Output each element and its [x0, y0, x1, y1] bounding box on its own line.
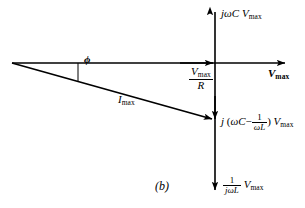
label-sub: max: [275, 72, 289, 81]
figure-caption: (b): [155, 180, 169, 192]
total-current-phasor: [12, 63, 212, 119]
label-v: V: [242, 7, 249, 19]
label-close-paren: ): [267, 115, 271, 127]
label-omega-c: ωC: [224, 7, 239, 19]
label-sub: max: [250, 183, 263, 192]
label-phase-angle: ϕ: [84, 54, 90, 65]
label-sub: max: [280, 120, 293, 129]
label-resistive-current: Vmax R: [189, 66, 213, 91]
fraction-one-over-omega-l: 1ωL: [252, 113, 267, 133]
fraction-denominator: R: [189, 80, 213, 92]
fraction-vmax-over-r: Vmax R: [189, 66, 213, 91]
label-sub: max: [249, 12, 262, 21]
fraction-denominator: jωL: [223, 186, 241, 195]
label-net-reactive-current: j (ωC−1ωL) Vmax: [221, 113, 294, 133]
fraction-numerator: Vmax: [189, 66, 213, 80]
label-capacitive-current: jωC Vmax: [221, 8, 262, 20]
label-inductive-current: 1 jωL Vmax: [223, 176, 264, 196]
phasor-diagram-figure: jωC Vmax Vmax Vmax R j (ωC−1ωL) Vmax 1 j…: [0, 0, 305, 208]
label-j: j: [221, 115, 224, 127]
label-omega-c: ωC: [230, 115, 245, 127]
label-voltage-axis: Vmax: [268, 68, 289, 80]
label-total-current: Imax: [118, 94, 135, 106]
fraction-denominator: ωL: [252, 123, 267, 132]
fraction-one-over-j-omega-l: 1 jωL: [223, 176, 241, 196]
phi-symbol: ϕ: [84, 53, 90, 65]
label-sub: max: [122, 98, 135, 107]
